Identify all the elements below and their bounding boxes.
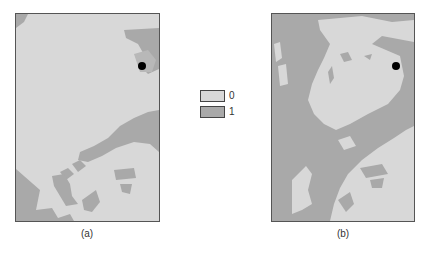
location-marker-a xyxy=(138,62,146,70)
location-marker-b xyxy=(392,62,400,70)
map-panel-a xyxy=(15,13,160,222)
classification-map-a xyxy=(16,14,159,221)
classification-map-b xyxy=(272,14,414,221)
map-panel-b xyxy=(271,13,415,222)
legend-swatch-0 xyxy=(200,90,225,102)
legend-label-0: 0 xyxy=(229,90,235,102)
legend-label-1: 1 xyxy=(229,106,235,118)
legend-swatch-1 xyxy=(200,106,225,118)
panel-caption-a: (a) xyxy=(67,228,107,239)
panel-caption-b: (b) xyxy=(323,228,363,239)
